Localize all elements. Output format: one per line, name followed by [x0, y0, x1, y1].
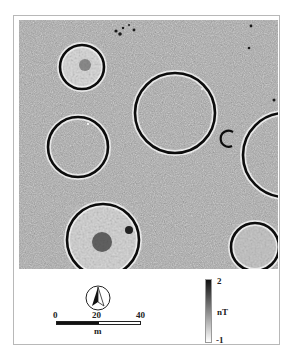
north-arrow-icon	[85, 285, 111, 311]
scale-segment-black	[57, 322, 99, 324]
magnetometry-map	[19, 20, 278, 269]
scale-bar	[56, 321, 141, 325]
scale-label-0: 0	[53, 310, 58, 320]
color-scale-bar	[205, 279, 212, 343]
scale-label-40: 40	[136, 310, 145, 320]
scale-unit: m	[94, 326, 102, 336]
color-scale-unit: nT	[217, 307, 228, 317]
scale-label-20: 20	[92, 310, 101, 320]
map-graphic	[19, 20, 278, 269]
color-scale-max: 2	[217, 276, 222, 286]
color-scale-min: -1	[216, 335, 224, 345]
scale-segment-white	[99, 322, 141, 324]
